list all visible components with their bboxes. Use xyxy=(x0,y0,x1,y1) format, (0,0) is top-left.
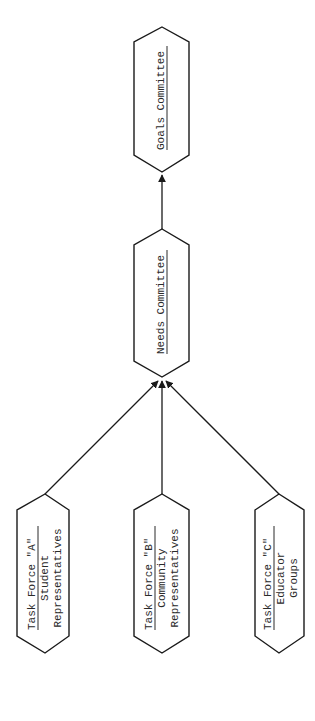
task-force-c-title: Task Force "C" xyxy=(262,538,274,630)
goals-committee-label: Goals Committee xyxy=(155,51,167,150)
task-force-a-line3: Representatives xyxy=(52,528,64,627)
node-needs-committee: Needs Committee xyxy=(134,229,189,377)
task-force-b-title: Task Force "B" xyxy=(143,538,155,630)
edge-tfc-to-needs xyxy=(166,381,279,494)
edge-tfa-to-needs xyxy=(45,381,158,494)
needs-committee-label: Needs Committee xyxy=(155,255,167,354)
task-force-c-line2: Educator xyxy=(275,552,287,605)
task-force-b-line3: Representatives xyxy=(169,528,181,627)
task-force-b-line2: Community xyxy=(156,548,168,608)
task-force-c-line3: Groups xyxy=(288,558,300,598)
node-task-force-b: Task Force "B" Community Representatives xyxy=(134,494,189,653)
task-force-a-line2: Student xyxy=(39,555,51,601)
node-task-force-c: Task Force "C" Educator Groups xyxy=(255,494,304,653)
node-task-force-a: Task Force "A" Student Representatives xyxy=(17,494,69,653)
node-goals-committee: Goals Committee xyxy=(134,27,189,172)
task-force-a-title: Task Force "A" xyxy=(26,538,38,630)
flowchart-canvas: Goals Committee Needs Committee Task For… xyxy=(0,0,315,721)
